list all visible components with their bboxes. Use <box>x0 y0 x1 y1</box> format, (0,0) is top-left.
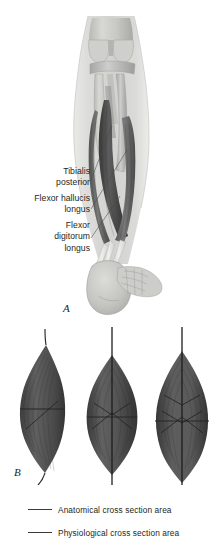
muscle-architecture-diagrams <box>0 325 224 485</box>
muscle-fusiform-asymmetric <box>20 329 65 485</box>
legend-row-anatomical: Anatomical cross section area <box>0 498 224 521</box>
legend-row-physiological: Physiological cross section area <box>0 521 224 544</box>
muscle-unipennate <box>87 327 138 485</box>
label-flexor-digitorum-longus: Flexor digitorum longus <box>2 220 90 253</box>
foot-skeleton <box>87 261 162 315</box>
muscle-label-group: Tibialis posterior Flexor hallucis longu… <box>2 166 90 254</box>
legend-label-anatomical: Anatomical cross section area <box>58 505 172 515</box>
legend-label-physiological: Physiological cross section area <box>58 528 179 538</box>
cross-section-legend: Anatomical cross section area Physiologi… <box>0 498 224 544</box>
panel-b-letter: B <box>14 466 21 478</box>
panel-b-cross-sections: B <box>0 325 224 485</box>
label-flexor-hallucis-longus: Flexor hallucis longus <box>2 193 90 215</box>
label-line: posterior <box>2 177 90 188</box>
label-line: Flexor <box>2 220 90 231</box>
panel-a-letter: A <box>63 302 70 314</box>
leg-anatomy-illustration <box>0 0 224 330</box>
label-line: longus <box>2 204 90 215</box>
label-tibialis-posterior: Tibialis posterior <box>2 166 90 188</box>
tendon-distal <box>38 473 45 485</box>
label-line: Tibialis <box>2 166 90 177</box>
tendon-proximal <box>45 329 46 345</box>
knee-joint <box>89 18 135 74</box>
anatomical-line-swatch <box>28 509 52 510</box>
label-line: digitorum <box>2 231 90 242</box>
label-line: Flexor hallucis <box>2 193 90 204</box>
muscle-bipennate <box>155 327 209 485</box>
panel-a-leg-anatomy: Tibialis posterior Flexor hallucis longu… <box>0 0 224 330</box>
label-line: longus <box>2 243 90 254</box>
physiological-line-swatch <box>28 532 52 533</box>
